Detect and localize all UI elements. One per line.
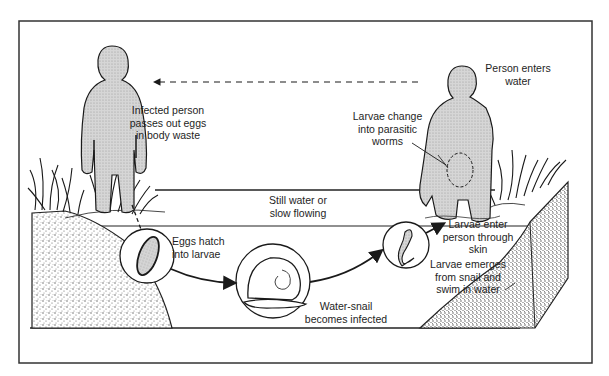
label-larvae-enter: Larvae enter person through skin [428, 218, 528, 256]
label-snail-infected: Water-snail becomes infected [296, 300, 396, 325]
egg-stage-icon [120, 229, 174, 283]
life-cycle-diagram: Infected person passes out eggs in body … [0, 0, 609, 376]
label-larvae-emerge: Larvae emerges from snail and swim in wa… [418, 258, 518, 296]
egg-to-snail-arrow [171, 269, 234, 283]
label-still-water: Still water or slow flowing [250, 194, 346, 219]
label-eggs-hatch: Eggs hatch into larvae [172, 235, 242, 260]
label-person-enters: Person enters water [468, 62, 568, 87]
wading-person-icon [420, 66, 500, 222]
label-larvae-change: Larvae change into parasitic worms [345, 110, 430, 148]
label-infected-person: Infected person passes out eggs in body … [118, 104, 218, 142]
snail-to-larva-arrow [310, 251, 381, 282]
